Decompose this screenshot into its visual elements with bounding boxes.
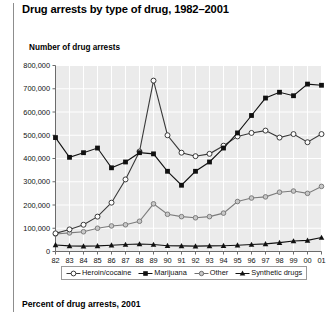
y-axis-tick-label: 700,000 bbox=[23, 84, 50, 93]
data-point-marker bbox=[263, 128, 268, 133]
y-axis-tick-label: 0 bbox=[46, 247, 50, 256]
data-point-marker bbox=[179, 214, 184, 219]
filled-square-icon bbox=[138, 269, 153, 278]
x-axis-tick-label: 92 bbox=[191, 256, 199, 265]
x-axis-tick-label: 93 bbox=[205, 256, 213, 265]
x-axis-tick-label: 95 bbox=[233, 256, 241, 265]
data-point-marker bbox=[319, 83, 324, 88]
data-point-marker bbox=[151, 202, 156, 207]
data-point-marker bbox=[263, 195, 268, 200]
data-point-marker bbox=[277, 135, 282, 140]
legend-item-marijuana[interactable]: Marijuana bbox=[138, 269, 186, 278]
data-point-marker bbox=[81, 150, 86, 155]
data-point-marker bbox=[207, 151, 212, 156]
data-point-marker bbox=[249, 196, 254, 201]
data-point-marker bbox=[235, 131, 240, 136]
data-point-marker bbox=[151, 78, 156, 83]
data-point-marker bbox=[221, 211, 226, 216]
data-point-marker bbox=[67, 155, 72, 160]
x-axis-tick-label: 98 bbox=[275, 256, 283, 265]
data-point-marker bbox=[109, 165, 114, 170]
data-point-marker bbox=[109, 200, 114, 205]
data-point-marker bbox=[319, 132, 324, 137]
legend-item-label: Synthetic drugs bbox=[251, 269, 302, 276]
x-axis-tick-label: 91 bbox=[177, 256, 185, 265]
legend-item-label: Heroin/cocaine bbox=[82, 269, 131, 276]
data-point-marker bbox=[277, 90, 282, 95]
y-axis-tick-label: 800,000 bbox=[23, 61, 50, 70]
x-axis-tick-label: 85 bbox=[93, 256, 101, 265]
data-point-marker bbox=[53, 231, 58, 236]
data-point-marker bbox=[109, 224, 114, 229]
data-point-marker bbox=[81, 222, 86, 227]
legend-item-heroin-cocaine[interactable]: Heroin/cocaine bbox=[66, 269, 131, 278]
data-point-marker bbox=[179, 183, 184, 188]
data-point-marker bbox=[193, 169, 198, 174]
y-axis-tick-label: 500,000 bbox=[23, 131, 50, 140]
data-point-marker bbox=[305, 191, 310, 196]
chart-page: Drug arrests by type of drug, 1982–2001 … bbox=[0, 0, 332, 314]
y-axis-tick-label: 100,000 bbox=[23, 224, 50, 233]
x-axis-tick-label: 90 bbox=[163, 256, 171, 265]
data-point-marker bbox=[123, 177, 128, 182]
data-point-marker bbox=[249, 130, 254, 135]
y-axis-tick-label: 400,000 bbox=[23, 154, 50, 163]
chart-legend: Heroin/cocaineMarijuanaOtherSynthetic dr… bbox=[61, 266, 307, 280]
data-point-marker bbox=[291, 93, 296, 98]
data-point-marker bbox=[249, 113, 254, 118]
y-axis-tick-label: 200,000 bbox=[23, 201, 50, 210]
data-point-marker bbox=[221, 146, 226, 151]
legend-item-synthetic-drugs[interactable]: Synthetic drugs bbox=[235, 269, 302, 278]
footer-section-title: Percent of drug arrests, 2001 bbox=[22, 299, 140, 309]
data-point-marker bbox=[67, 227, 72, 232]
x-axis-tick-label: 88 bbox=[135, 256, 143, 265]
data-point-marker bbox=[123, 222, 128, 227]
data-point-marker bbox=[123, 160, 128, 165]
data-point-marker bbox=[95, 214, 100, 219]
data-point-marker bbox=[179, 150, 184, 155]
x-axis-tick-label: 84 bbox=[79, 256, 87, 265]
data-point-marker bbox=[165, 169, 170, 174]
x-axis-tick-label: 99 bbox=[289, 256, 297, 265]
data-point-marker bbox=[291, 132, 296, 137]
data-point-marker bbox=[137, 219, 142, 224]
y-axis-tick-label: 300,000 bbox=[23, 177, 50, 186]
data-point-marker bbox=[291, 189, 296, 194]
x-axis-tick-label: 87 bbox=[121, 256, 129, 265]
x-axis-tick-label: 00 bbox=[303, 256, 311, 265]
data-point-marker bbox=[305, 82, 310, 87]
data-point-marker bbox=[207, 214, 212, 219]
x-axis-tick-label: 82 bbox=[51, 256, 59, 265]
data-point-marker bbox=[81, 229, 86, 234]
x-axis-tick-label: 94 bbox=[219, 256, 227, 265]
data-point-marker bbox=[277, 190, 282, 195]
y-axis-tick-label: 600,000 bbox=[23, 108, 50, 117]
small-open-circle-icon bbox=[194, 269, 209, 278]
data-point-marker bbox=[235, 199, 240, 204]
data-point-marker bbox=[95, 146, 100, 151]
legend-item-label: Marijuana bbox=[154, 269, 186, 276]
data-point-marker bbox=[319, 184, 324, 189]
x-axis-tick-label: 97 bbox=[261, 256, 269, 265]
data-point-marker bbox=[137, 150, 142, 155]
legend-item-other[interactable]: Other bbox=[194, 269, 228, 278]
data-point-marker bbox=[305, 140, 310, 145]
data-point-marker bbox=[53, 135, 58, 140]
x-axis-tick-label: 86 bbox=[107, 256, 115, 265]
data-point-marker bbox=[151, 151, 156, 156]
data-point-marker bbox=[165, 212, 170, 217]
data-point-marker bbox=[193, 154, 198, 159]
legend-item-label: Other bbox=[210, 269, 228, 276]
data-point-marker bbox=[193, 215, 198, 220]
x-axis-tick-label: 89 bbox=[149, 256, 157, 265]
data-point-marker bbox=[165, 133, 170, 138]
data-point-marker bbox=[207, 160, 212, 165]
x-axis-tick-label: 01 bbox=[317, 256, 325, 265]
data-point-marker bbox=[263, 96, 268, 101]
x-axis-tick-label: 96 bbox=[247, 256, 255, 265]
data-point-marker bbox=[95, 226, 100, 231]
filled-triangle-icon bbox=[235, 269, 250, 278]
open-circle-icon bbox=[66, 269, 81, 278]
x-axis-tick-label: 83 bbox=[65, 256, 73, 265]
